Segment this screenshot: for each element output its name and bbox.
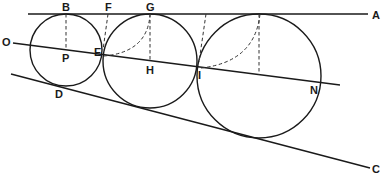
label-p: P xyxy=(62,52,69,64)
label-f: F xyxy=(105,1,112,13)
label-b: B xyxy=(62,1,70,13)
label-g: G xyxy=(146,1,155,13)
middle-line-o xyxy=(13,43,340,85)
label-h: H xyxy=(146,64,154,76)
label-d: D xyxy=(55,88,63,100)
label-c: C xyxy=(372,163,380,175)
label-n: N xyxy=(310,84,318,96)
dashed-arc-i xyxy=(201,14,260,68)
label-a: A xyxy=(372,9,380,21)
label-e: E xyxy=(94,46,101,58)
label-i: I xyxy=(198,69,201,81)
geometric-diagram: B F G A O E P H I N D C xyxy=(0,0,382,176)
label-o: O xyxy=(2,36,11,48)
